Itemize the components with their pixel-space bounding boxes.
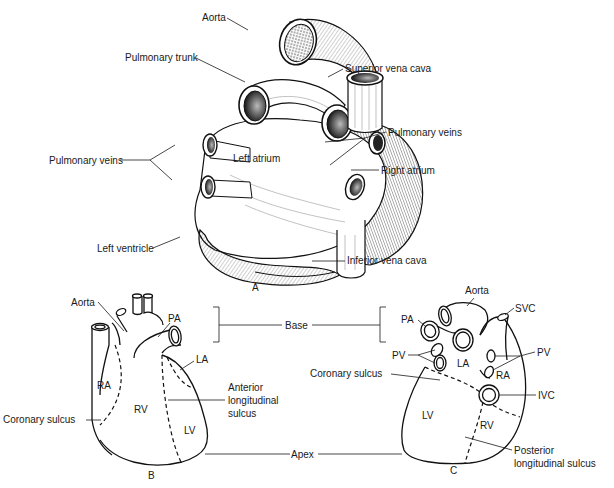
figure-b-anterior-heart: Aorta PA LA RA RV LV Coronary sulcus Ant… bbox=[3, 294, 279, 481]
label-superior-vena-cava: Superior vena cava bbox=[345, 63, 432, 74]
label-aorta-c: Aorta bbox=[465, 285, 489, 296]
label-pa-b: PA bbox=[168, 313, 181, 324]
label-left-atrium: Left atrium bbox=[233, 153, 280, 164]
heart-anatomy-diagram: Aorta Pulmonary trunk Superior vena cava… bbox=[0, 0, 614, 488]
label-pv-c-right: PV bbox=[537, 347, 551, 358]
label-pulmonary-veins-left: Pulmonary veins bbox=[49, 155, 123, 166]
label-coronary-sulcus-c: Coronary sulcus bbox=[310, 368, 382, 379]
label-anterior-3: sulcus bbox=[228, 408, 256, 419]
label-ra-b: RA bbox=[97, 380, 111, 391]
caption-a: A bbox=[252, 282, 259, 293]
label-anterior-2: longitudinal bbox=[228, 395, 279, 406]
label-pulmonary-veins-right: Pulmonary veins bbox=[388, 127, 462, 138]
label-ra-c: RA bbox=[496, 370, 510, 381]
caption-b: B bbox=[148, 470, 155, 481]
label-inferior-vena-cava: Inferior vena cava bbox=[347, 255, 427, 266]
label-ivc: IVC bbox=[538, 390, 555, 401]
label-coronary-sulcus-b: Coronary sulcus bbox=[3, 414, 75, 425]
caption-c: C bbox=[450, 465, 457, 476]
label-lv-b: LV bbox=[184, 425, 196, 436]
figure-a-posterior-heart: Aorta Pulmonary trunk Superior vena cava… bbox=[49, 12, 462, 293]
label-rv-b: RV bbox=[134, 404, 148, 415]
label-aorta-a: Aorta bbox=[202, 12, 226, 23]
label-lv-c: LV bbox=[422, 410, 434, 421]
label-la-c: LA bbox=[457, 358, 470, 369]
label-posterior-2: longitudinal sulcus bbox=[514, 458, 596, 469]
label-base: Base bbox=[285, 320, 308, 331]
label-aorta-b: Aorta bbox=[71, 297, 95, 308]
label-rv-c: RV bbox=[480, 420, 494, 431]
figure-c-posterior-heart: Aorta SVC PA PV LA PV RA Coronary sulcus… bbox=[310, 285, 596, 476]
inferior-vena-cava bbox=[337, 220, 365, 278]
label-posterior-1: Posterior bbox=[514, 445, 555, 456]
label-right-atrium: Right atrium bbox=[381, 165, 435, 176]
label-pa-c: PA bbox=[401, 314, 414, 325]
label-apex: Apex bbox=[291, 449, 314, 460]
label-left-ventricle: Left ventricle bbox=[97, 243, 154, 254]
label-pulmonary-trunk: Pulmonary trunk bbox=[125, 52, 199, 63]
label-pv-c-left: PV bbox=[392, 350, 406, 361]
superior-vena-cava bbox=[348, 78, 382, 133]
label-svc: SVC bbox=[515, 303, 536, 314]
label-anterior-1: Anterior bbox=[228, 382, 264, 393]
label-la-b: LA bbox=[196, 354, 209, 365]
